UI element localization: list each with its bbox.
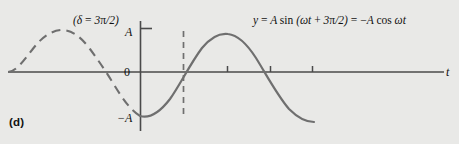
waveform-dashed-negative-t (8, 30, 140, 116)
panel-label: (d) (9, 117, 24, 129)
figure-panel-d: (d) (δ = 3π/2) y = A sin (ωt + 3π/2) = −… (0, 0, 459, 144)
y-axis-label-origin: 0 (124, 66, 130, 78)
equation-annotation: y = A sin (ωt + 3π/2) = −A cos ωt (253, 15, 406, 27)
waveform-solid-positive-t (140, 34, 314, 122)
x-axis-label: t (446, 66, 449, 78)
y-axis-label-negative-amplitude: −A (117, 112, 132, 124)
phase-annotation: (δ = 3π/2) (73, 15, 119, 27)
y-axis-label-positive-amplitude: A (125, 26, 132, 38)
